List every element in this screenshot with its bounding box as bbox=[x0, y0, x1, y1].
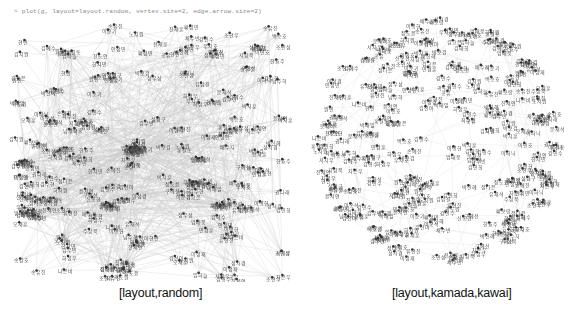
kamada-kawai-layout-canvas bbox=[300, 10, 577, 278]
network-plot-random-layout bbox=[0, 14, 300, 282]
caption-kamada-kawai-layout: [layout,kamada,kawai] bbox=[392, 286, 511, 300]
random-layout-canvas bbox=[0, 14, 300, 282]
network-plot-kamada-kawai-layout bbox=[300, 10, 577, 278]
caption-random-layout: [layout,random] bbox=[119, 286, 202, 300]
